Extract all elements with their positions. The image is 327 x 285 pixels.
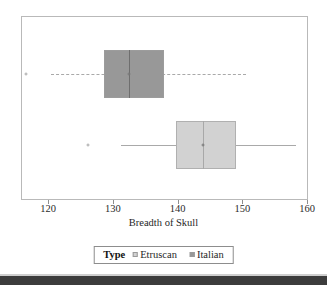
x-tick-label-120: 120 — [40, 203, 56, 214]
x-axis-ticks — [21, 200, 308, 205]
center-marker-italian — [128, 73, 131, 76]
outlier-italian-0[interactable] — [25, 73, 28, 76]
boxplot-figure: 120130140150160 Breadth of Skull Type Et… — [0, 0, 327, 285]
center-marker-etruscan — [202, 144, 205, 147]
legend-title: Type — [103, 249, 125, 260]
box-italian[interactable] — [104, 50, 164, 98]
x-tick-label-150: 150 — [234, 203, 250, 214]
legend-swatch-italian — [190, 252, 195, 257]
bottom-strip — [0, 276, 327, 285]
x-tick-label-130: 130 — [105, 203, 121, 214]
legend-label-etruscan: Etruscan — [140, 249, 177, 260]
x-axis-title: Breadth of Skull — [0, 217, 327, 228]
x-tick-label-160: 160 — [299, 203, 315, 214]
legend-swatch-etruscan — [133, 252, 138, 257]
legend-entry-italian[interactable]: Italian — [190, 249, 224, 260]
plot-area — [22, 17, 307, 199]
x-tick-label-140: 140 — [170, 203, 186, 214]
plot-frame — [21, 16, 308, 200]
legend-entry-etruscan[interactable]: Etruscan — [133, 249, 177, 260]
legend-label-italian: Italian — [197, 249, 224, 260]
box-etruscan[interactable] — [176, 121, 236, 169]
legend: Type Etruscan Italian — [93, 246, 234, 264]
outlier-etruscan-0[interactable] — [86, 144, 89, 147]
